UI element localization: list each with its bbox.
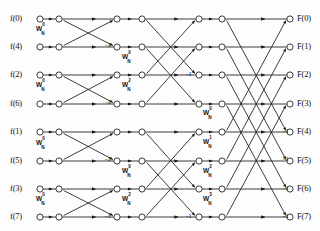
input-node-4 bbox=[37, 129, 43, 135]
stage1-out-node-2 bbox=[114, 72, 120, 78]
minus-one-label-0: -1 bbox=[105, 41, 111, 49]
twiddle-exponent: 0 bbox=[42, 22, 45, 27]
stage2-node-7 bbox=[139, 214, 145, 220]
minus-one-label-8: -1 bbox=[283, 184, 289, 192]
stage3-node-3 bbox=[219, 101, 225, 107]
minus-one-label-7: -1 bbox=[283, 155, 289, 163]
output-label-2: F(2) bbox=[297, 69, 311, 79]
stage3-node-7 bbox=[219, 214, 225, 220]
minus-one-label-3: -1 bbox=[105, 212, 111, 220]
twiddle-exponent: 1 bbox=[209, 135, 212, 140]
stage1-node-0 bbox=[56, 16, 62, 22]
stage2-node-3 bbox=[139, 101, 145, 107]
twiddle-factor-4: W0N bbox=[122, 52, 134, 62]
input-label-0: f(0) bbox=[10, 13, 22, 23]
twiddle-exponent: 2 bbox=[128, 192, 131, 197]
output-label-5: F(5) bbox=[297, 155, 311, 165]
stage3-node-2 bbox=[219, 72, 225, 78]
output-label-1: F(1) bbox=[297, 41, 311, 51]
twiddle-factor-11: W3N bbox=[203, 194, 215, 204]
stage1-out-node-5 bbox=[114, 158, 120, 164]
stage3-node-6 bbox=[219, 186, 225, 192]
output-label-4: F(4) bbox=[297, 126, 311, 136]
twiddle-factor-10: W2N bbox=[203, 166, 215, 176]
stage2-node-5 bbox=[139, 158, 145, 164]
twiddle-exponent: 3 bbox=[209, 192, 212, 197]
stage2-node-2 bbox=[139, 72, 145, 78]
input-label-2: f(2) bbox=[10, 69, 22, 79]
twiddle-subscript: N bbox=[41, 201, 44, 206]
stage1-out-node-7 bbox=[114, 214, 120, 220]
twiddle-factor-2: W0N bbox=[36, 138, 48, 148]
stage1-out-node-0 bbox=[114, 16, 120, 22]
twiddle-exponent: 0 bbox=[128, 164, 131, 169]
stage2-out-node-2 bbox=[196, 72, 202, 78]
input-label-3: f(6) bbox=[10, 98, 22, 108]
minus-one-label-4: -1 bbox=[186, 70, 192, 78]
twiddle-subscript: N bbox=[127, 173, 130, 178]
twiddle-exponent: 2 bbox=[209, 164, 212, 169]
stage2-node-6 bbox=[139, 186, 145, 192]
stage3-node-5 bbox=[219, 158, 225, 164]
twiddle-factor-8: W0N bbox=[203, 108, 215, 118]
output-label-6: F(6) bbox=[297, 183, 311, 193]
minus-one-label-2: -1 bbox=[105, 155, 111, 163]
input-label-4: f(1) bbox=[10, 126, 22, 136]
stage2-node-1 bbox=[139, 44, 145, 50]
input-node-5 bbox=[37, 158, 43, 164]
stage2-out-node-6 bbox=[196, 186, 202, 192]
stage1-node-3 bbox=[56, 101, 62, 107]
twiddle-exponent: 0 bbox=[42, 192, 45, 197]
twiddle-factor-3: W0N bbox=[36, 194, 48, 204]
twiddle-exponent: 2 bbox=[128, 78, 131, 83]
twiddle-subscript: N bbox=[208, 144, 211, 149]
output-label-0: F(0) bbox=[297, 13, 311, 23]
stage3-out-node-1 bbox=[287, 44, 293, 50]
twiddle-factor-9: W1N bbox=[203, 137, 215, 147]
minus-one-label-6: -1 bbox=[283, 127, 289, 135]
fft-butterfly-diagram: f(0)f(4)f(2)f(6)f(1)f(5)f(3)f(7) F(0)F(1… bbox=[0, 0, 320, 231]
twiddle-subscript: N bbox=[127, 87, 130, 92]
stage2-out-node-7 bbox=[196, 214, 202, 220]
twiddle-factor-1: W0N bbox=[36, 80, 48, 90]
stage3-out-node-2 bbox=[287, 72, 293, 78]
twiddle-exponent: 0 bbox=[209, 106, 212, 111]
stage1-node-4 bbox=[56, 129, 62, 135]
stage3-node-1 bbox=[219, 44, 225, 50]
twiddle-factor-5: W2N bbox=[122, 80, 134, 90]
stage2-node-0 bbox=[139, 16, 145, 22]
twiddle-exponent: 0 bbox=[42, 136, 45, 141]
twiddle-exponent: 0 bbox=[128, 50, 131, 55]
twiddle-subscript: N bbox=[208, 115, 211, 120]
input-node-7 bbox=[37, 214, 43, 220]
stage1-out-node-4 bbox=[114, 129, 120, 135]
stage1-node-2 bbox=[56, 72, 62, 78]
stage3-out-node-0 bbox=[287, 16, 293, 22]
twiddle-factor-7: W2N bbox=[122, 194, 134, 204]
stage2-out-node-0 bbox=[196, 16, 202, 22]
stage2-out-node-4 bbox=[196, 129, 202, 135]
input-label-7: f(7) bbox=[10, 211, 22, 221]
stage2-out-node-5 bbox=[196, 158, 202, 164]
input-label-1: f(4) bbox=[10, 41, 22, 51]
twiddle-subscript: N bbox=[208, 201, 211, 206]
input-node-3 bbox=[37, 101, 43, 107]
twiddle-subscript: N bbox=[127, 201, 130, 206]
twiddle-subscript: N bbox=[127, 59, 130, 64]
stage1-node-6 bbox=[56, 186, 62, 192]
stage1-node-5 bbox=[56, 158, 62, 164]
output-label-3: F(3) bbox=[297, 98, 311, 108]
input-node-1 bbox=[37, 44, 43, 50]
stage3-out-node-3 bbox=[287, 101, 293, 107]
stage1-out-node-6 bbox=[114, 186, 120, 192]
stage2-out-node-3 bbox=[196, 101, 202, 107]
input-label-6: f(3) bbox=[10, 183, 22, 193]
twiddle-factor-0: W0N bbox=[36, 24, 48, 34]
twiddle-subscript: N bbox=[41, 87, 44, 92]
input-label-5: f(5) bbox=[10, 155, 22, 165]
twiddle-subscript: N bbox=[41, 145, 44, 150]
twiddle-subscript: N bbox=[41, 31, 44, 36]
twiddle-subscript: N bbox=[208, 173, 211, 178]
stage1-out-node-1 bbox=[114, 44, 120, 50]
twiddle-exponent: 0 bbox=[42, 78, 45, 83]
